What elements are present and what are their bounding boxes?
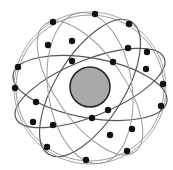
diagram-canvas [0,0,173,170]
satellite-icon [45,42,51,48]
satellite-icon [143,66,149,72]
satellite-icon [30,119,36,125]
satellite-icon [92,11,98,17]
satellite-icon [15,64,21,70]
satellite-constellation-diagram [0,0,173,170]
satellite-icon [124,148,130,154]
satellite-icon [129,126,135,132]
satellite-icon [160,81,166,87]
satellite-icon [107,132,113,138]
satellite-icon [125,45,131,51]
satellite-icon [83,157,89,163]
satellite-icon [69,38,75,44]
satellite-icon [89,115,95,121]
satellite-icon [44,144,50,150]
satellite-icon [158,103,164,109]
satellite-icon [33,99,39,105]
satellite-icon [110,59,116,65]
satellite-icon [144,49,150,55]
earth-globe [70,67,110,107]
satellite-icon [50,122,56,128]
satellite-icon [69,58,75,64]
satellite-icon [12,85,18,91]
earth-group [70,67,110,107]
satellite-icon [105,107,111,113]
satellite-icon [126,21,132,27]
satellite-icon [50,19,56,25]
